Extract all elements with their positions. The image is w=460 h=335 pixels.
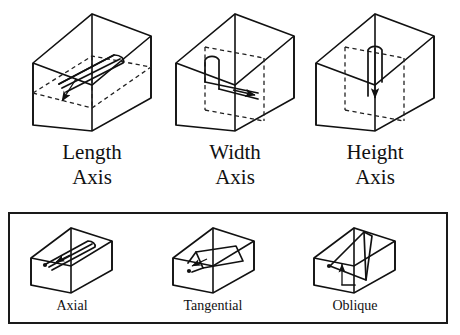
- mode-label-oblique: Oblique: [305, 298, 405, 315]
- axis-label-width: Width Axis: [175, 140, 295, 190]
- width-axis-crack-arrow: [205, 56, 258, 99]
- mode-label-tangential: Tangential: [163, 298, 263, 315]
- axis-label-length-line1: Length: [62, 140, 121, 164]
- height-axis-diagram: [316, 14, 434, 131]
- length-axis-diagram: [33, 14, 151, 131]
- mode-label-axial: Axial: [22, 298, 122, 315]
- axis-label-height-line1: Height: [346, 140, 403, 164]
- figure-root: .s { fill:none; stroke:#111; stroke-widt…: [0, 0, 460, 335]
- width-axis-box-wireframe: [176, 14, 294, 131]
- axis-label-length-line2: Axis: [32, 165, 152, 190]
- axis-label-width-line1: Width: [209, 140, 261, 164]
- width-axis-diagram: [176, 14, 294, 131]
- axis-label-width-line2: Axis: [175, 165, 295, 190]
- axis-label-height: Height Axis: [315, 140, 435, 190]
- axis-label-length: Length Axis: [32, 140, 152, 190]
- axis-label-height-line2: Axis: [315, 165, 435, 190]
- height-axis-crack-arrow: [368, 46, 382, 98]
